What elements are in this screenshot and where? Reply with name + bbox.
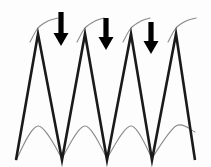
arrow-3-shaft: [148, 22, 153, 41]
arrow-1-shaft: [58, 12, 63, 33]
figure-container: Sawtooth waveform trace with downward an…: [0, 0, 211, 167]
arrow-2-shaft: [103, 18, 108, 37]
waveform-chart: [0, 0, 211, 167]
